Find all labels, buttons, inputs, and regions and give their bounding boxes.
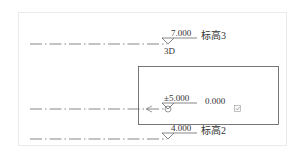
level-3-name[interactable]: 标高3	[201, 31, 226, 41]
level-3-elevation[interactable]: 7.000	[171, 29, 191, 38]
view-tag: 3D	[164, 47, 175, 56]
level-3-line[interactable]	[30, 38, 197, 44]
elevation-drawing	[0, 0, 303, 162]
checkbox[interactable]	[235, 106, 241, 112]
level-2-elevation[interactable]: 4.000	[171, 124, 191, 133]
level-2-line[interactable]	[30, 133, 197, 139]
level-1-elevation[interactable]: ±5.000	[164, 94, 189, 103]
level-1-line[interactable]	[30, 103, 197, 112]
offset-value[interactable]: 0.000	[205, 97, 225, 106]
level-2-name[interactable]: 标高2	[201, 126, 226, 136]
